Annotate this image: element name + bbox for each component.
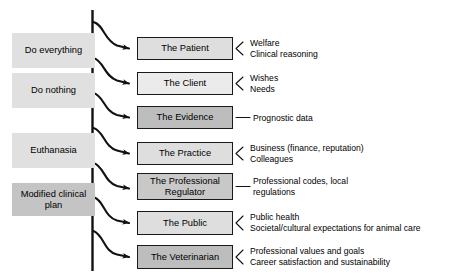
node-box-patient: The Patient bbox=[137, 37, 233, 60]
option-label: Do nothing bbox=[31, 85, 76, 96]
fork-patient bbox=[236, 42, 243, 55]
node-box-professional-regulator: The Professional Regulator bbox=[137, 173, 233, 200]
option-box: Do everything bbox=[12, 33, 95, 68]
annotation-public-1: Public health bbox=[250, 212, 299, 223]
annotation-client-2: Needs bbox=[250, 84, 275, 95]
node-label: The Patient bbox=[161, 43, 209, 54]
node-label: The Professional Regulator bbox=[150, 176, 220, 198]
annotation-professional-regulator-1: Professional codes, local bbox=[253, 176, 348, 187]
node-label: The Public bbox=[163, 218, 207, 229]
node-label: The Veterinarian bbox=[151, 252, 219, 263]
annotation-patient-2: Clinical reasoning bbox=[250, 49, 318, 60]
fork-veterinarian bbox=[236, 250, 243, 264]
annotation-professional-regulator-2: regulations bbox=[253, 187, 295, 198]
option-label: Modified clinical plan bbox=[21, 189, 87, 211]
annotation-patient-1: Welfare bbox=[250, 38, 279, 49]
node-box-practice: The Practice bbox=[137, 142, 233, 165]
node-label: The Client bbox=[164, 78, 206, 89]
fork-practice bbox=[236, 147, 243, 160]
node-box-evidence: The Evidence bbox=[137, 106, 233, 129]
arrow-to-evidence bbox=[94, 93, 130, 118]
clinical-decision-diagram: Do everything Do nothing Euthanasia Modi… bbox=[0, 0, 456, 280]
option-box: Euthanasia bbox=[12, 133, 95, 168]
arrow-to-veterinarian bbox=[94, 231, 130, 257]
option-box: Do nothing bbox=[12, 73, 95, 108]
node-label: The Evidence bbox=[157, 112, 214, 123]
annotation-veterinarian-2: Career satisfaction and sustainability bbox=[250, 257, 390, 268]
arrow-to-practice bbox=[94, 128, 130, 154]
arrow-to-professional-regulator bbox=[94, 163, 130, 189]
node-box-public: The Public bbox=[137, 211, 233, 235]
arrow-to-client bbox=[94, 58, 130, 84]
annotation-practice-1: Business (finance, reputation) bbox=[250, 143, 364, 154]
arrow-to-patient bbox=[94, 22, 130, 49]
arrow-to-public bbox=[94, 197, 130, 223]
option-label: Do everything bbox=[25, 45, 82, 56]
annotation-public-2: Societal/cultural expectations for anima… bbox=[250, 223, 421, 234]
node-box-veterinarian: The Veterinarian bbox=[137, 245, 233, 269]
annotation-veterinarian-1: Professional values and goals bbox=[250, 246, 364, 257]
option-box: Modified clinical plan bbox=[12, 183, 95, 216]
node-label: The Practice bbox=[159, 148, 211, 159]
annotation-practice-2: Colleagues bbox=[250, 154, 293, 165]
node-box-client: The Client bbox=[137, 72, 233, 95]
annotation-evidence-1: Prognostic data bbox=[253, 113, 313, 124]
fork-client bbox=[236, 77, 243, 90]
fork-public bbox=[236, 216, 243, 230]
option-label: Euthanasia bbox=[30, 145, 77, 156]
annotation-client-1: Wishes bbox=[250, 73, 278, 84]
